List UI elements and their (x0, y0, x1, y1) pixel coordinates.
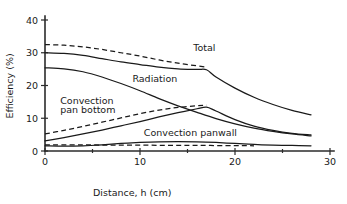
y-tick-label: 30 (26, 47, 38, 58)
series-label: Total (192, 42, 215, 53)
x-axis-title: Distance, h (cm) (93, 187, 172, 198)
chart-tick-labels: 0102030400102030 (26, 15, 336, 168)
x-tick-label: 30 (324, 156, 336, 167)
x-tick-label: 10 (134, 156, 146, 167)
y-tick-label: 10 (26, 113, 38, 124)
y-axis-title: Efficiency (%) (4, 53, 15, 118)
x-tick-label: 0 (42, 156, 48, 167)
y-tick-label: 0 (32, 146, 38, 157)
y-tick-label: 20 (26, 80, 38, 91)
x-tick-label: 20 (229, 156, 241, 167)
efficiency-vs-distance-chart: 0102030400102030 TotalRadiationConvectio… (0, 0, 347, 204)
data-curve (45, 45, 207, 68)
y-tick-label: 40 (26, 15, 38, 26)
series-label: Convection panwall (144, 127, 237, 138)
series-label: Radiation (132, 73, 177, 84)
series-label: pan bottom (60, 104, 115, 115)
chart-series-labels: TotalRadiationConvectionpan bottomConvec… (60, 42, 237, 137)
chart-svg: 0102030400102030 TotalRadiationConvectio… (0, 0, 347, 204)
